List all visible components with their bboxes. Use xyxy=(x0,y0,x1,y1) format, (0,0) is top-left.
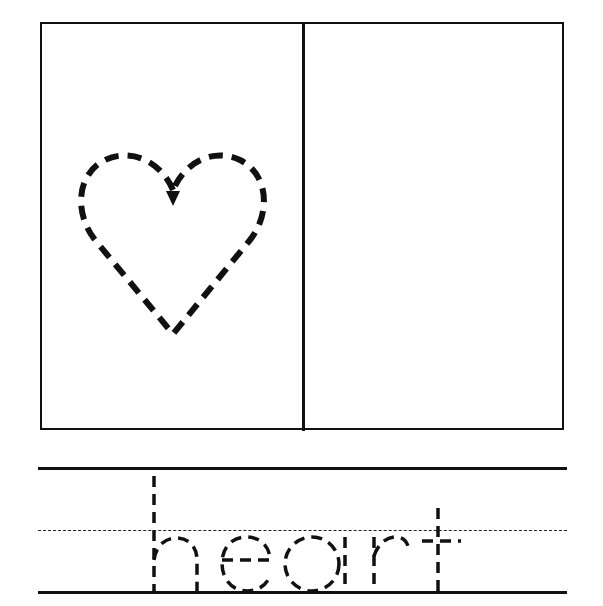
letter-t xyxy=(422,508,461,592)
letter-r xyxy=(374,537,408,592)
letter-e xyxy=(222,537,270,591)
letter-h xyxy=(154,476,197,592)
letter-a xyxy=(285,537,345,592)
traceable-word[interactable] xyxy=(0,0,603,606)
